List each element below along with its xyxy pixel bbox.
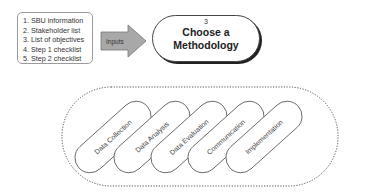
activities-diagram: Data Collection Data Analysis Data Evalu… <box>0 0 369 196</box>
